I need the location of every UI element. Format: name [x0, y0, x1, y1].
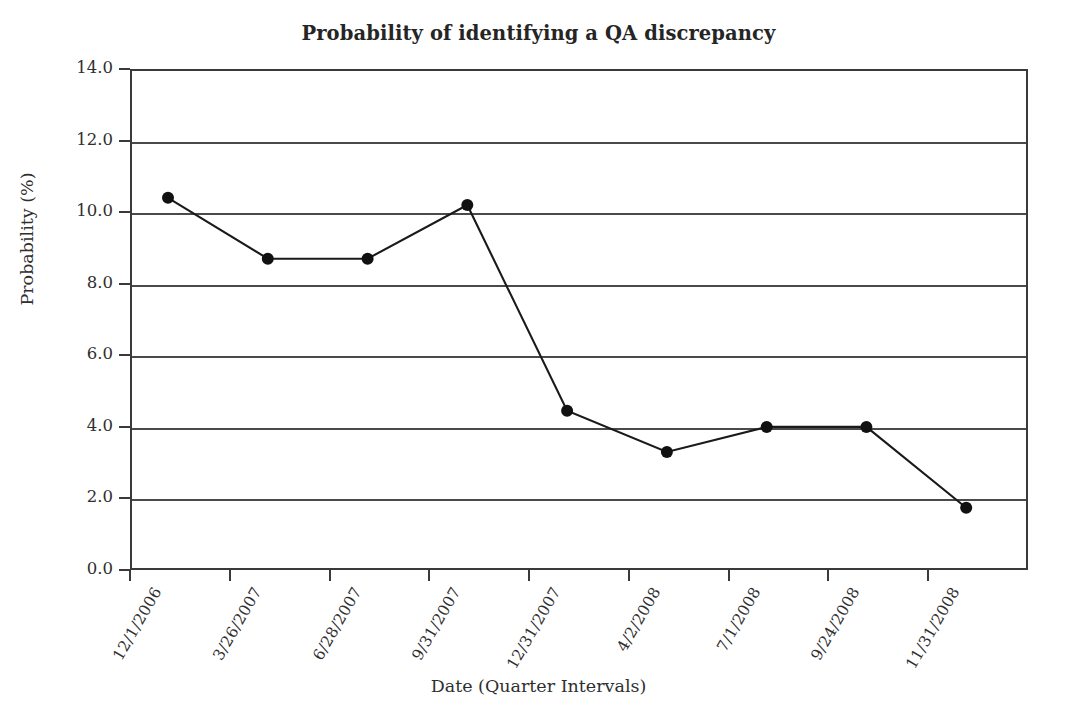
- data-point: [761, 421, 773, 433]
- y-axis-title: Probability (%): [17, 139, 37, 339]
- data-point: [262, 253, 274, 265]
- line-chart: Probability of identifying a QA discrepa…: [0, 0, 1077, 722]
- data-point: [860, 421, 872, 433]
- series-line: [168, 198, 966, 508]
- data-point: [162, 192, 174, 204]
- data-point: [960, 502, 972, 514]
- data-series-layer: [0, 0, 1077, 722]
- x-axis-title: Date (Quarter Intervals): [0, 676, 1077, 696]
- data-point: [362, 253, 374, 265]
- data-point: [561, 405, 573, 417]
- data-point: [461, 199, 473, 211]
- data-point: [661, 446, 673, 458]
- series-markers: [162, 192, 972, 514]
